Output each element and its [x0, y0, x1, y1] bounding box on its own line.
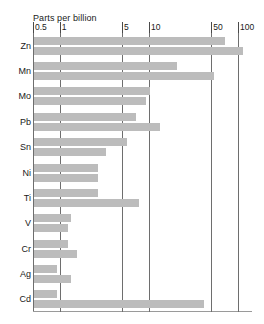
- bar: [34, 47, 243, 55]
- bar: [34, 164, 98, 172]
- x-tick-label-100: 100: [240, 22, 254, 32]
- bar: [34, 300, 204, 308]
- category-label-Sn: Sn: [0, 142, 31, 152]
- x-tick-mark-0.5: [33, 22, 34, 33]
- bar: [34, 250, 77, 258]
- x-tick-label-0.5: 0.5: [35, 22, 47, 32]
- category-label-Ni: Ni: [0, 168, 31, 178]
- category-label-Mn: Mn: [0, 66, 31, 76]
- bar: [34, 138, 127, 146]
- bar: [34, 214, 71, 222]
- bar: [34, 174, 98, 182]
- bar: [34, 224, 68, 232]
- category-label-V: V: [0, 218, 31, 228]
- bar: [34, 87, 150, 95]
- x-tick-mark-100: [238, 22, 239, 33]
- gridline-100: [238, 33, 239, 312]
- axis-line-bottom: [33, 311, 252, 312]
- bar: [34, 97, 146, 105]
- bar: [34, 275, 71, 283]
- category-label-Pb: Pb: [0, 117, 31, 127]
- plot-area: [33, 33, 252, 312]
- x-tick-mark-50: [211, 22, 212, 33]
- bar: [34, 72, 214, 80]
- x-tick-label-1: 1: [62, 22, 67, 32]
- bar: [34, 290, 57, 298]
- category-label-Cd: Cd: [0, 294, 31, 304]
- bar: [34, 37, 225, 45]
- bar: [34, 62, 177, 70]
- bar: [34, 240, 68, 248]
- bar: [34, 113, 136, 121]
- x-tick-label-5: 5: [124, 22, 129, 32]
- bar: [34, 265, 57, 273]
- category-axis: ZnMnMoPbSnNiTiVCrAgCd: [0, 33, 31, 312]
- category-label-Zn: Zn: [0, 41, 31, 51]
- x-tick-mark-10: [149, 22, 150, 33]
- bar: [34, 199, 139, 207]
- bar-chart: Parts per billion ZnMnMoPbSnNiTiVCrAgCd …: [0, 0, 264, 324]
- x-tick-label-10: 10: [151, 22, 160, 32]
- bar: [34, 123, 160, 131]
- x-tick-mark-5: [122, 22, 123, 33]
- category-label-Mo: Mo: [0, 91, 31, 101]
- bar: [34, 148, 106, 156]
- category-label-Cr: Cr: [0, 244, 31, 254]
- x-tick-mark-1: [60, 22, 61, 33]
- category-label-Ag: Ag: [0, 269, 31, 279]
- bar: [34, 189, 98, 197]
- x-tick-label-50: 50: [213, 22, 222, 32]
- category-label-Ti: Ti: [0, 193, 31, 203]
